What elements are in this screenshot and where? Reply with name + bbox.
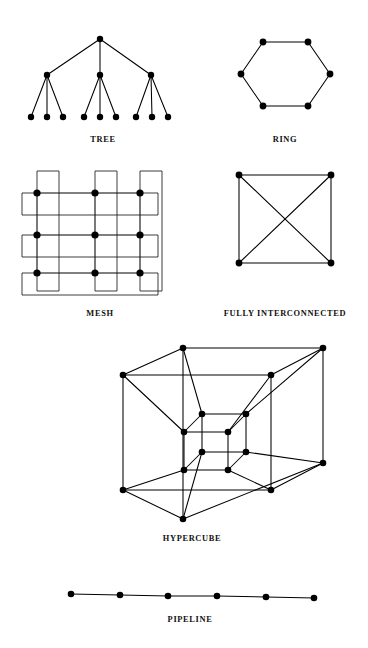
caption-fully-interconnected: FULLY INTERCONNECTED xyxy=(224,309,346,318)
panel-hypercube: HYPERCUBE xyxy=(120,345,327,543)
topology-node xyxy=(199,411,206,418)
topology-node xyxy=(68,591,75,598)
hypercube-edges xyxy=(123,348,323,519)
topology-node xyxy=(328,260,335,267)
caption-pipeline: PIPELINE xyxy=(168,615,213,624)
topology-node xyxy=(320,460,327,467)
topology-node xyxy=(268,487,275,494)
topology-node xyxy=(136,231,143,238)
topology-node xyxy=(199,449,206,456)
panel-ring: RING xyxy=(238,39,334,144)
topology-node xyxy=(236,260,243,267)
topology-node xyxy=(149,114,155,120)
topology-node xyxy=(225,467,232,474)
topology-node xyxy=(263,594,270,601)
topology-canvas: TREE RING MESH FULLY INTERCONNECTED HYPE… xyxy=(0,0,368,648)
topology-node xyxy=(181,467,188,474)
topology-node xyxy=(214,593,221,600)
topology-node xyxy=(305,39,312,46)
topology-node xyxy=(180,516,187,523)
panel-tree: TREE xyxy=(28,36,171,144)
topology-node xyxy=(136,269,143,276)
topology-node xyxy=(44,72,50,78)
topology-node xyxy=(97,36,103,42)
topology-node xyxy=(133,114,139,120)
topology-node xyxy=(311,595,318,602)
topology-node xyxy=(97,114,103,120)
caption-ring: RING xyxy=(273,135,297,144)
topology-node xyxy=(236,172,243,179)
caption-tree: TREE xyxy=(90,135,115,144)
ring-edges xyxy=(241,42,330,106)
topology-node xyxy=(238,71,245,78)
topology-node xyxy=(327,71,334,78)
topology-node xyxy=(33,231,40,238)
topology-node xyxy=(243,411,250,418)
topology-node xyxy=(117,592,124,599)
topology-node xyxy=(260,39,267,46)
topology-node xyxy=(305,103,312,110)
panel-mesh: MESH xyxy=(22,171,162,318)
topology-node xyxy=(91,231,98,238)
panel-pipeline: PIPELINE xyxy=(68,591,318,624)
topology-node xyxy=(181,429,188,436)
topology-node xyxy=(120,372,127,379)
topology-node xyxy=(328,172,335,179)
topology-node xyxy=(60,114,66,120)
topology-node xyxy=(243,449,250,456)
topology-node xyxy=(320,345,327,352)
topology-node xyxy=(28,114,34,120)
topology-node xyxy=(33,269,40,276)
fully-interconnected-edges xyxy=(239,175,331,263)
topology-node xyxy=(81,114,87,120)
topology-node xyxy=(225,429,232,436)
topology-node xyxy=(268,372,275,379)
topology-node xyxy=(33,189,40,196)
topology-node xyxy=(165,593,172,600)
topology-node xyxy=(120,487,127,494)
topology-figure: TREE RING MESH FULLY INTERCONNECTED HYPE… xyxy=(0,0,368,648)
topology-node xyxy=(44,114,50,120)
pipeline-edges xyxy=(71,594,314,598)
topology-node xyxy=(165,114,171,120)
topology-node xyxy=(91,269,98,276)
topology-node xyxy=(180,345,187,352)
topology-node xyxy=(148,72,154,78)
mesh-nodes xyxy=(33,189,143,276)
topology-node xyxy=(97,72,103,78)
topology-node xyxy=(260,103,267,110)
caption-mesh: MESH xyxy=(86,309,113,318)
panel-fully-interconnected: FULLY INTERCONNECTED xyxy=(224,172,346,318)
topology-node xyxy=(113,114,119,120)
topology-node xyxy=(136,189,143,196)
topology-node xyxy=(91,189,98,196)
ring-nodes xyxy=(238,39,334,110)
caption-hypercube: HYPERCUBE xyxy=(163,534,221,543)
